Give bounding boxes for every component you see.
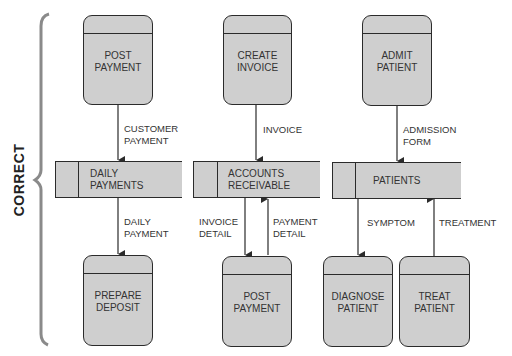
flow-label-treatment: TREATMENT [439, 217, 496, 229]
process-label: CREATE INVOICE [224, 33, 291, 104]
process-header [223, 257, 291, 275]
process-header [224, 16, 291, 34]
flow-label-customer-payment: CUSTOMER PAYMENT [124, 123, 178, 147]
process-header [400, 257, 469, 275]
dfd-diagram: CORRECT POST PAYMENT CUSTOMER PAYMENT DA… [0, 0, 512, 356]
process-post-payment-top[interactable]: POST PAYMENT [83, 15, 153, 105]
bracket-icon [35, 14, 49, 345]
process-diagnose-patient[interactable]: DIAGNOSE PATIENT [323, 256, 393, 347]
flow-label-payment-detail: PAYMENT DETAIL [273, 216, 318, 240]
process-treat-patient[interactable]: TREAT PATIENT [399, 256, 470, 347]
process-label: TREAT PATIENT [400, 274, 469, 346]
process-create-invoice[interactable]: CREATE INVOICE [223, 15, 292, 105]
process-label: POST PAYMENT [223, 274, 291, 346]
flow-label-symptom: SYMPTOM [367, 217, 415, 229]
process-header [324, 257, 392, 275]
flow-label-daily-payment: DAILY PAYMENT [124, 216, 169, 240]
process-label: ADMIT PATIENT [363, 33, 431, 105]
process-label: POST PAYMENT [84, 33, 152, 104]
process-label: PREPARE DEPOSIT [84, 273, 152, 345]
store-divider [78, 162, 79, 197]
datastore-accounts-receivable[interactable]: ACCOUNTS RECEIVABLE [193, 161, 320, 198]
store-divider [355, 163, 356, 198]
process-header [84, 256, 152, 274]
flow-label-invoice-detail: INVOICE DETAIL [199, 216, 238, 240]
process-label: DIAGNOSE PATIENT [324, 274, 392, 346]
process-admit-patient[interactable]: ADMIT PATIENT [362, 15, 432, 106]
store-divider [217, 162, 218, 197]
process-prepare-deposit[interactable]: PREPARE DEPOSIT [83, 255, 153, 346]
store-label: ACCOUNTS RECEIVABLE [228, 162, 320, 197]
store-label: DAILY PAYMENTS [90, 162, 182, 197]
datastore-daily-payments[interactable]: DAILY PAYMENTS [55, 161, 182, 198]
process-header [84, 16, 152, 34]
store-label: PATIENTS [373, 163, 461, 198]
flow-label-invoice: INVOICE [263, 124, 302, 136]
process-post-payment-bottom[interactable]: POST PAYMENT [222, 256, 292, 347]
process-header [363, 16, 431, 34]
flow-label-admission-form: ADMISSION FORM [403, 124, 456, 148]
datastore-patients[interactable]: PATIENTS [332, 162, 461, 199]
correct-label: CORRECT [4, 150, 34, 210]
